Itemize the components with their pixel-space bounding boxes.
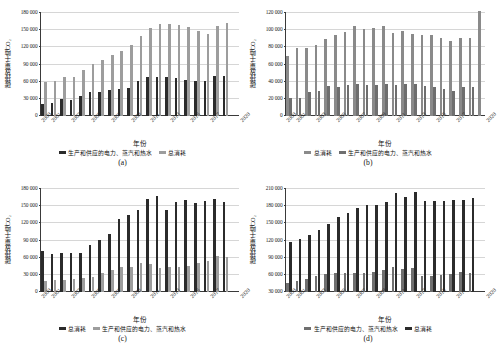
x-axis-label-c: 年份 bbox=[40, 314, 239, 324]
bar-group bbox=[392, 12, 398, 116]
bar-group bbox=[204, 12, 210, 116]
y-axis-label-d: 碳排放量/千吨CO₂ bbox=[247, 188, 258, 292]
bar-group bbox=[411, 188, 417, 292]
chart-panel-b: 碳排放量/千吨CO₂020 00040 00060 00080 000100 0… bbox=[245, 0, 491, 176]
plot-area-d: 30 00060 00090 000120 000150 000180 0002… bbox=[285, 188, 485, 292]
bar-group bbox=[315, 188, 321, 292]
bar-group bbox=[421, 188, 427, 292]
y-tick-label: 60 000 bbox=[268, 271, 282, 277]
y-axis-label-a: 碳排放量/千吨CO₂ bbox=[2, 12, 13, 116]
bar-group bbox=[411, 12, 417, 116]
bar-group bbox=[296, 12, 302, 116]
bar-group bbox=[286, 12, 292, 116]
bar-group bbox=[137, 12, 143, 116]
bar-group bbox=[382, 12, 388, 116]
bar bbox=[111, 55, 114, 116]
y-tick-label: 80 000 bbox=[268, 43, 282, 49]
bar bbox=[404, 84, 407, 116]
bar bbox=[63, 280, 66, 292]
bar bbox=[366, 205, 369, 292]
chart-panel-c: 碳排放量/千吨CO₂030 00060 00090 000120 000150 … bbox=[0, 176, 245, 352]
bar-group bbox=[70, 188, 76, 292]
bar bbox=[159, 268, 162, 292]
bar bbox=[347, 213, 350, 292]
bar bbox=[216, 26, 219, 116]
bar bbox=[375, 205, 378, 292]
bar-group bbox=[51, 188, 57, 292]
bar bbox=[414, 192, 417, 292]
legend-label: 总消耗 bbox=[68, 324, 86, 333]
y-tick-label: 120 000 bbox=[21, 43, 38, 49]
y-tick-label: 100 000 bbox=[266, 26, 283, 32]
y-tick-label: 20 000 bbox=[268, 95, 282, 101]
x-axis-ticks-d: 2000200120032005200720092011201320152017… bbox=[285, 293, 485, 315]
bar bbox=[472, 198, 475, 292]
bar bbox=[366, 85, 369, 116]
bar-group bbox=[146, 12, 152, 116]
legend-label: 生产和供应的电力、蒸汽和热水 bbox=[348, 148, 432, 157]
y-tick-label: 60 000 bbox=[23, 254, 37, 260]
legend-label: 总消耗 bbox=[314, 148, 332, 157]
panel-caption-c: (c) bbox=[0, 334, 245, 343]
y-tick-label: 180 000 bbox=[266, 202, 283, 208]
bar bbox=[327, 86, 330, 116]
bar bbox=[187, 266, 190, 292]
bar-group bbox=[363, 188, 369, 292]
bar bbox=[130, 45, 133, 116]
y-tick-label: 90 000 bbox=[23, 61, 37, 67]
bar bbox=[472, 87, 475, 116]
bar-group bbox=[305, 188, 311, 292]
plot-area-a: 030 00060 00090 000120 000150 000180 000 bbox=[40, 12, 239, 116]
bar bbox=[207, 34, 210, 116]
y-tick-label: 0 bbox=[35, 288, 38, 294]
y-tick-label: 60 000 bbox=[268, 61, 282, 67]
bar bbox=[111, 270, 114, 292]
bar bbox=[92, 64, 95, 116]
bar bbox=[149, 28, 152, 116]
y-tick-label: 120 000 bbox=[266, 9, 283, 15]
bar-group bbox=[223, 12, 229, 116]
bar-group bbox=[184, 188, 190, 292]
x-axis-label-a: 年份 bbox=[40, 138, 239, 148]
bar bbox=[168, 267, 171, 292]
legend-item[interactable]: 生产和供应的电力、蒸汽和热水 bbox=[59, 148, 152, 157]
bar-group bbox=[108, 12, 114, 116]
bar bbox=[356, 84, 359, 116]
legend-label: 总消耗 bbox=[414, 324, 432, 333]
bar bbox=[337, 217, 340, 292]
bar-group bbox=[353, 12, 359, 116]
y-tick-label: 0 bbox=[35, 112, 38, 118]
bar bbox=[63, 77, 66, 116]
legend-b: 总消耗生产和供应的电力、蒸汽和热水 bbox=[245, 148, 491, 157]
bar bbox=[101, 273, 104, 292]
plot-area-c: 030 00060 00090 000120 000150 000180 000 bbox=[40, 188, 239, 292]
bar-group bbox=[232, 12, 238, 116]
bar bbox=[82, 278, 85, 292]
bar bbox=[149, 264, 152, 292]
bar-group bbox=[324, 188, 330, 292]
legend-item[interactable]: 总消耗 bbox=[304, 148, 331, 157]
legend-swatch-icon bbox=[304, 327, 311, 330]
legend-item[interactable]: 生产和供应的电力、蒸汽和热水 bbox=[304, 324, 397, 333]
legend-item[interactable]: 总消耗 bbox=[59, 324, 86, 333]
legend-item[interactable]: 总消耗 bbox=[159, 148, 186, 157]
bar bbox=[101, 60, 104, 116]
legend-item[interactable]: 总消耗 bbox=[405, 324, 432, 333]
bar-group bbox=[175, 12, 181, 116]
legend-item[interactable]: 生产和供应的电力、蒸汽和热水 bbox=[93, 324, 186, 333]
bar bbox=[414, 84, 417, 116]
legend-item[interactable]: 生产和供应的电力、蒸汽和热水 bbox=[339, 148, 432, 157]
bar bbox=[356, 208, 359, 292]
bar-group bbox=[223, 188, 229, 292]
bar bbox=[404, 197, 407, 292]
x-axis-label-b: 年份 bbox=[285, 138, 485, 148]
bar bbox=[159, 24, 162, 116]
y-tick-label: 90 000 bbox=[23, 237, 37, 243]
y-tick-label: 150 000 bbox=[21, 202, 38, 208]
bar-group bbox=[430, 12, 436, 116]
bar bbox=[308, 92, 311, 116]
plot-area-b: 020 00040 00060 00080 000100 000120 000 bbox=[285, 12, 485, 116]
bar-group bbox=[98, 188, 104, 292]
bar-group bbox=[440, 12, 446, 116]
bar-group bbox=[204, 188, 210, 292]
